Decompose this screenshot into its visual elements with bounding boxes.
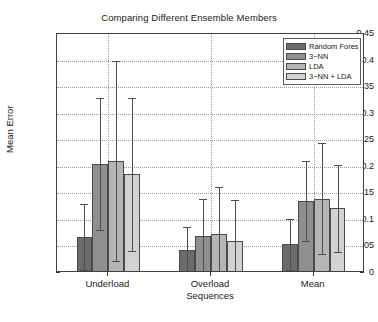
legend-item-label: Random Forest <box>309 42 358 51</box>
chart-figure: Comparing Different Ensemble Members Mea… <box>0 0 378 322</box>
error-bar-cap-lower <box>286 270 294 271</box>
legend-item[interactable]: LDA <box>286 62 358 71</box>
x-axis-tick-label: Overload Sequences <box>186 278 234 301</box>
error-bar-cap-upper <box>215 187 223 188</box>
error-bar-cap-upper <box>334 165 342 166</box>
error-bar-stem <box>187 227 188 271</box>
x-axis-tick-label: Mean <box>301 278 325 290</box>
error-bar-cap-upper <box>80 204 88 205</box>
x-axis-tick-mark <box>107 272 108 276</box>
error-bar-stem <box>132 98 133 251</box>
legend-swatch <box>286 63 306 70</box>
error-bar-cap-upper <box>286 219 294 220</box>
error-bar-cap-lower <box>334 252 342 253</box>
chart-title: Comparing Different Ensemble Members <box>0 12 378 23</box>
legend-item[interactable]: Random Forest <box>286 42 358 51</box>
error-bar-stem <box>290 219 291 269</box>
legend-swatch <box>286 73 306 80</box>
error-bar-stem <box>322 143 323 254</box>
error-bar-stem <box>100 98 101 230</box>
legend-swatch <box>286 53 306 60</box>
legend-item[interactable]: 3−NN <box>286 52 358 61</box>
error-bar-stem <box>235 200 236 271</box>
error-bar-stem <box>306 161 307 241</box>
legend: Random Forest3−NNLDA3−NN + LDA <box>283 38 361 85</box>
error-bar-cap-upper <box>302 161 310 162</box>
legend-swatch <box>286 43 306 50</box>
error-bar-cap-lower <box>302 241 310 242</box>
legend-item-label: 3−NN <box>309 52 328 61</box>
error-bar-cap-lower <box>112 261 120 262</box>
legend-item-label: LDA <box>309 62 324 71</box>
error-bar-cap-lower <box>318 254 326 255</box>
x-axis-tick-label: Underload <box>85 278 129 290</box>
error-bar-stem <box>338 165 339 252</box>
error-bar-cap-lower <box>128 251 136 252</box>
y-axis-label: Mean Error <box>4 105 15 153</box>
error-bar-cap-upper <box>112 61 120 62</box>
error-bar-stem <box>116 61 117 261</box>
error-bar-cap-lower <box>96 230 104 231</box>
x-axis-tick-mark <box>313 272 314 276</box>
x-axis-tick-mark <box>210 272 211 276</box>
legend-item-label: 3−NN + LDA <box>309 72 352 81</box>
error-bar-stem <box>84 204 85 270</box>
error-bar-cap-upper <box>318 143 326 144</box>
gridline-horizontal <box>57 140 363 141</box>
error-bar-stem <box>203 199 204 271</box>
y-axis-tick-mark-right <box>360 272 364 273</box>
y-axis-tick-mark <box>56 272 60 273</box>
error-bar-cap-lower <box>80 270 88 271</box>
gridline-horizontal <box>57 87 363 88</box>
error-bar-cap-upper <box>96 98 104 99</box>
legend-item[interactable]: 3−NN + LDA <box>286 72 358 81</box>
error-bar-cap-upper <box>231 200 239 201</box>
error-bar-cap-upper <box>128 98 136 99</box>
error-bar-cap-upper <box>199 199 207 200</box>
error-bar-cap-upper <box>183 227 191 228</box>
gridline-horizontal <box>57 114 363 115</box>
error-bar-stem <box>219 187 220 271</box>
